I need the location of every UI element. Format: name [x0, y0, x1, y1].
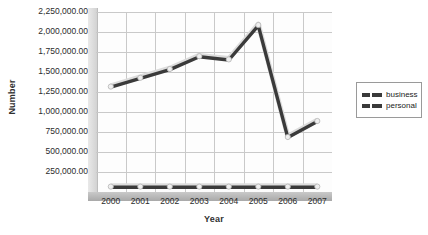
data-point-marker — [315, 118, 320, 123]
data-point-marker — [167, 184, 172, 189]
y-axis-tick-label: 1,250,000.00 — [0, 86, 88, 96]
data-point-marker — [167, 66, 172, 71]
data-point-marker — [138, 75, 143, 80]
data-point-marker — [256, 22, 261, 27]
data-point-marker — [108, 184, 113, 189]
data-point-marker — [285, 184, 290, 189]
y-axis-tick-label: 1,500,000.00 — [0, 66, 88, 76]
legend-item-personal[interactable]: personal — [362, 101, 417, 110]
legend-item-business[interactable]: business — [362, 90, 417, 99]
data-point-marker — [226, 57, 231, 62]
y-axis-tick-label: 1,000,000.00 — [0, 106, 88, 116]
chart-legend: businesspersonal — [356, 82, 422, 118]
x-axis-tick-labels: 20002001200220032004200520062007 — [96, 196, 332, 210]
legend-label: personal — [386, 101, 417, 110]
y-axis-tick-label: 2,250,000.00 — [0, 6, 88, 16]
legend-label: business — [386, 90, 418, 99]
data-point-marker — [197, 54, 202, 59]
x-axis-title: Year — [96, 214, 332, 224]
data-point-marker — [256, 184, 261, 189]
y-axis-tick-label: 1,750,000.00 — [0, 46, 88, 56]
y-axis-tick-label: 500,000.00 — [0, 146, 88, 156]
data-point-marker — [138, 184, 143, 189]
x-axis-tick-label: 2007 — [297, 196, 337, 206]
data-point-marker — [108, 84, 113, 89]
plot-area — [96, 12, 332, 192]
legend-swatch-icon — [362, 104, 382, 108]
data-point-marker — [197, 184, 202, 189]
y-axis-tick-labels: 250,000.00500,000.00750,000.001,000,000.… — [0, 0, 88, 235]
data-point-marker — [226, 184, 231, 189]
legend-swatch-icon — [362, 93, 382, 97]
y-axis-tick-label: 750,000.00 — [0, 126, 88, 136]
y-axis-tick-label: 250,000.00 — [0, 166, 88, 176]
data-point-marker — [285, 134, 290, 139]
series-layer — [96, 12, 332, 192]
data-point-marker — [315, 184, 320, 189]
y-axis-tick-label: 2,000,000.00 — [0, 26, 88, 36]
line-chart: Number 250,000.00500,000.00750,000.001,0… — [0, 0, 428, 235]
